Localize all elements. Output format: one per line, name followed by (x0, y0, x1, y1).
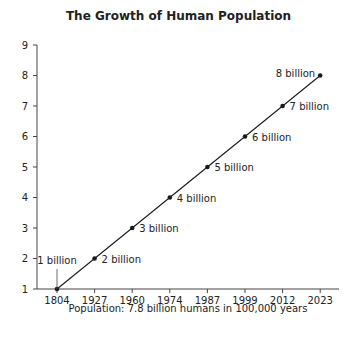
data-label: 4 billion (177, 193, 216, 204)
y-tick-label: 8 (22, 70, 28, 81)
data-label: 7 billion (290, 101, 329, 112)
line-chart: 1234567891804192719601974198719992012202… (0, 0, 357, 341)
y-tick-label: 7 (22, 101, 28, 112)
y-tick-label: 6 (22, 131, 28, 142)
population-series: 1 billion2 billion3 billion4 billion5 bi… (37, 68, 329, 292)
data-point (318, 73, 323, 78)
y-tick-label: 2 (22, 253, 28, 264)
data-point (168, 195, 173, 200)
population-line (57, 76, 320, 290)
x-axis-label: Population: 7.8 billion humans in 100,00… (37, 303, 339, 314)
data-label: 2 billion (102, 254, 141, 265)
data-point (92, 256, 97, 261)
y-tick-label: 9 (22, 40, 28, 51)
data-label: 6 billion (252, 132, 291, 143)
data-label: 1 billion (37, 255, 76, 266)
data-point (243, 134, 248, 139)
data-point (280, 104, 285, 109)
y-tick-label: 3 (22, 223, 28, 234)
y-tick-label: 4 (22, 192, 28, 203)
axes: 1234567891804192719601974198719992012202… (22, 40, 339, 307)
data-label: 8 billion (276, 68, 315, 79)
y-tick-label: 1 (22, 284, 28, 295)
y-tick-label: 5 (22, 162, 28, 173)
data-point (205, 165, 210, 170)
data-label: 5 billion (214, 162, 253, 173)
data-label: 3 billion (139, 223, 178, 234)
data-point (130, 226, 135, 231)
